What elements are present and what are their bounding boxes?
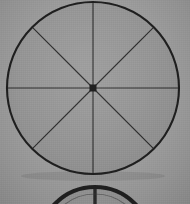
wheel-hub (90, 85, 97, 92)
image-canvas: Spoked wheel photograph Grayscale close-… (0, 0, 190, 204)
wheel-scene (0, 0, 190, 204)
